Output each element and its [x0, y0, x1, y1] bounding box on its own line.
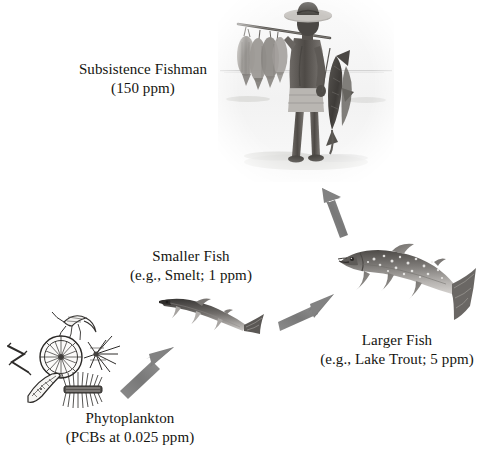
label-phytoplankton: Phytoplankton (PCBs at 0.025 ppm) [0, 409, 260, 447]
smelt-fish [156, 294, 274, 342]
biomagnification-diagram: Subsistence Fishman (150 ppm) [0, 0, 492, 465]
label-subsistence-fishman-line1: Subsistence Fishman [48, 60, 238, 79]
label-smaller-fish: Smaller Fish (e.g., Smelt; 1 ppm) [113, 247, 269, 285]
label-phytoplankton-line2: (PCBs at 0.025 ppm) [0, 428, 260, 447]
arrow-phytoplankton-to-smelt [118, 345, 180, 401]
arrow-trout-to-fishman [314, 182, 360, 240]
label-larger-fish-line2: (e.g., Lake Trout; 5 ppm) [304, 350, 490, 369]
label-phytoplankton-line1: Phytoplankton [0, 409, 260, 428]
label-smaller-fish-line2: (e.g., Smelt; 1 ppm) [113, 266, 269, 285]
arrow-smelt-to-trout [276, 292, 338, 334]
label-smaller-fish-line1: Smaller Fish [113, 247, 269, 266]
label-subsistence-fishman: Subsistence Fishman (150 ppm) [48, 60, 238, 98]
label-subsistence-fishman-line2: (150 ppm) [48, 79, 238, 98]
phytoplankton-cluster [2, 302, 120, 410]
lake-trout-fish [334, 240, 486, 330]
fisherman-photo [218, 0, 394, 182]
label-larger-fish: Larger Fish (e.g., Lake Trout; 5 ppm) [304, 331, 490, 369]
